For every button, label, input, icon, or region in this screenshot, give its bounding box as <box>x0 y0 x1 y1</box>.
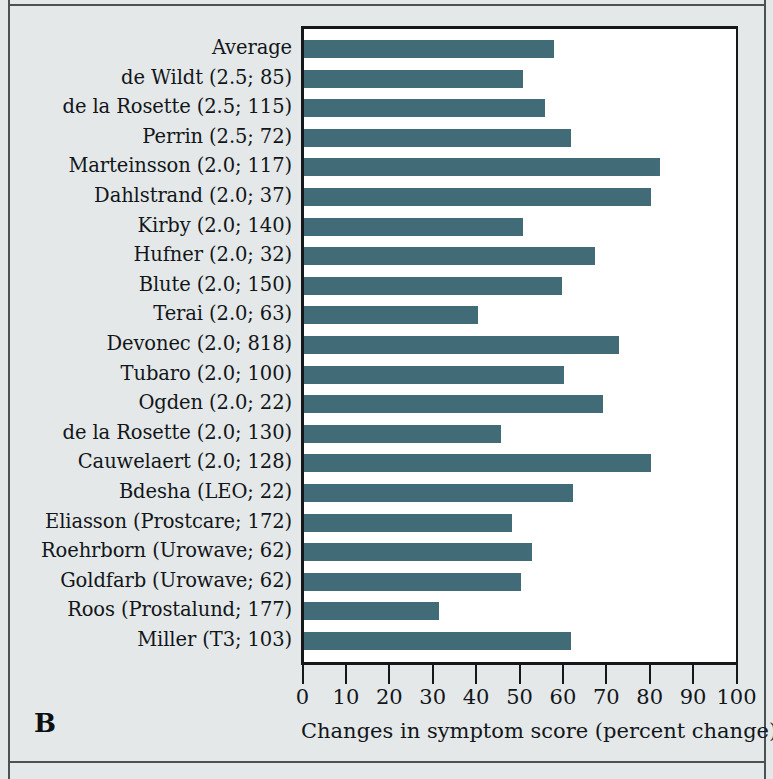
x-axis-tick <box>388 665 390 684</box>
category-label: Miller (T3; 103) <box>10 630 292 650</box>
x-axis-tick-label: 20 <box>376 684 403 710</box>
panel-letter: B <box>34 708 56 738</box>
bar <box>304 99 545 117</box>
category-label: Perrin (2.5; 72) <box>10 127 292 147</box>
bar <box>304 247 595 265</box>
bar <box>304 425 501 443</box>
bar <box>304 454 651 472</box>
x-axis-tick <box>562 665 564 684</box>
x-axis-tick <box>605 665 607 684</box>
frame-border-bottom <box>8 761 766 763</box>
x-axis-tick <box>345 665 347 684</box>
x-axis-tick <box>736 665 738 684</box>
x-axis-tick <box>475 665 477 684</box>
category-label: Hufner (2.0; 32) <box>10 245 292 265</box>
x-axis-tick <box>432 665 434 684</box>
category-label: Bdesha (LEO; 22) <box>10 482 292 502</box>
x-axis-tick <box>649 665 651 684</box>
plot-area <box>301 26 738 665</box>
category-axis-labels: Averagede Wildt (2.5; 85)de la Rosette (… <box>10 26 292 665</box>
category-label: Marteinsson (2.0; 117) <box>10 156 292 176</box>
category-label: de la Rosette (2.5; 115) <box>10 97 292 117</box>
x-axis-tick-label: 90 <box>680 684 707 710</box>
bar <box>304 366 564 384</box>
category-label: Devonec (2.0; 818) <box>10 334 292 354</box>
category-label: Kirby (2.0; 140) <box>10 216 292 236</box>
x-axis-tick-label: 0 <box>296 684 309 710</box>
category-label: Roos (Prostalund; 177) <box>10 600 292 620</box>
bar <box>304 218 523 236</box>
bar <box>304 484 573 502</box>
category-label: Tubaro (2.0; 100) <box>10 364 292 384</box>
x-axis-tick-label: 40 <box>463 684 490 710</box>
category-label: Average <box>10 38 292 58</box>
category-label: de la Rosette (2.0; 130) <box>10 423 292 443</box>
category-label: Goldfarb (Urowave; 62) <box>10 571 292 591</box>
category-label: Terai (2.0; 63) <box>10 304 292 324</box>
x-axis-title: Changes in symptom score (percent change… <box>301 718 741 744</box>
bar <box>304 543 532 561</box>
bar <box>304 602 439 620</box>
x-axis-tick-label: 30 <box>419 684 446 710</box>
category-label: de Wildt (2.5; 85) <box>10 68 292 88</box>
bar <box>304 514 512 532</box>
bar <box>304 129 571 147</box>
frame-border-right <box>764 0 766 779</box>
x-axis-tick-label: 50 <box>506 684 533 710</box>
bar <box>304 306 478 324</box>
bar <box>304 158 660 176</box>
x-axis-tick <box>302 665 304 684</box>
bar <box>304 70 523 88</box>
x-axis-tick <box>519 665 521 684</box>
category-label: Cauwelaert (2.0; 128) <box>10 452 292 472</box>
bar <box>304 336 619 354</box>
bar <box>304 40 554 58</box>
category-label: Roehrborn (Urowave; 62) <box>10 541 292 561</box>
category-label: Ogden (2.0; 22) <box>10 393 292 413</box>
x-axis-tick <box>692 665 694 684</box>
bar-series <box>304 29 736 662</box>
figure-panel-b: Averagede Wildt (2.5; 85)de la Rosette (… <box>0 0 773 779</box>
x-axis-tick-label: 70 <box>593 684 620 710</box>
frame-border-top <box>8 4 766 6</box>
x-axis-tick-label: 80 <box>636 684 663 710</box>
x-axis-tick-label: 10 <box>333 684 360 710</box>
category-label: Dahlstrand (2.0; 37) <box>10 186 292 206</box>
category-label: Eliasson (Prostcare; 172) <box>10 512 292 532</box>
bar <box>304 277 562 295</box>
bar <box>304 395 603 413</box>
bar <box>304 632 571 650</box>
x-axis: 0102030405060708090100 <box>301 665 738 725</box>
bar <box>304 188 651 206</box>
x-axis-tick-label: 100 <box>716 684 756 710</box>
x-axis-tick-label: 60 <box>550 684 577 710</box>
bar <box>304 573 521 591</box>
category-label: Blute (2.0; 150) <box>10 275 292 295</box>
